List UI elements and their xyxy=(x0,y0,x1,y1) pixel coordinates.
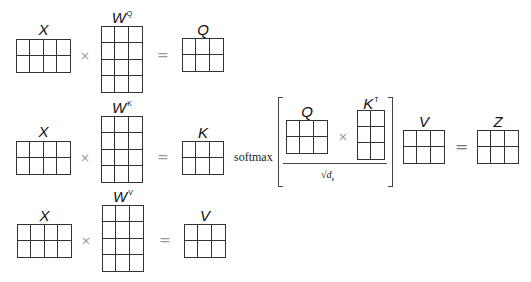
kt-matrix xyxy=(357,110,385,160)
attn-v-label: V xyxy=(403,114,445,129)
multiply-operator: × xyxy=(81,235,91,247)
z-matrix xyxy=(477,130,519,164)
k-matrix xyxy=(182,141,224,175)
wq-label: WQ xyxy=(101,10,143,25)
softmax-label: softmax xyxy=(234,151,273,163)
sqrt-dk: √dk xyxy=(321,170,334,182)
multiply-operator: × xyxy=(338,131,348,143)
x-label-row2: X xyxy=(16,124,71,139)
x-label-row1: X xyxy=(16,22,71,37)
attn-v-matrix xyxy=(403,130,445,164)
q-matrix xyxy=(182,38,224,72)
equals-operator: = xyxy=(157,48,169,62)
v-matrix xyxy=(184,224,226,258)
attn-q-matrix xyxy=(286,120,328,154)
q-label: Q xyxy=(182,22,224,37)
multiply-operator: × xyxy=(80,152,90,164)
x-label-row3: X xyxy=(17,208,72,223)
fraction-line xyxy=(283,163,387,164)
k-label: K xyxy=(182,125,224,140)
equals-operator: = xyxy=(157,150,169,164)
attn-q-label: Q xyxy=(286,104,328,119)
wk-label: WK xyxy=(101,100,143,115)
wv-label: WV xyxy=(102,189,144,204)
equals-operator: = xyxy=(159,233,171,247)
x-matrix-row2 xyxy=(16,141,71,175)
x-matrix-row1 xyxy=(16,39,71,73)
equals-operator: = xyxy=(455,139,468,155)
left-bracket xyxy=(278,97,283,187)
multiply-operator: × xyxy=(80,50,90,62)
x-matrix-row3 xyxy=(17,224,72,258)
v-label: V xyxy=(184,208,226,223)
wk-matrix xyxy=(101,116,143,183)
kt-label: KT xyxy=(357,96,385,111)
z-label: Z xyxy=(477,114,519,129)
right-bracket xyxy=(388,97,393,187)
wv-matrix xyxy=(102,205,144,272)
wq-matrix xyxy=(101,26,143,93)
